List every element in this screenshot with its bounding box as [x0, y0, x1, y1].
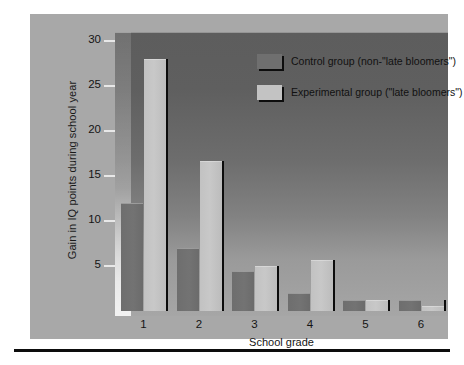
x-axis-label-6: 6 — [406, 318, 436, 330]
y-axis-tick-label: 15 — [88, 168, 101, 180]
x-axis-label-3: 3 — [240, 318, 270, 330]
bar-experimental-grade-1 — [144, 59, 166, 311]
x-axis-label-2: 2 — [184, 318, 214, 330]
bar-top-edge — [177, 248, 199, 249]
group-divider-grade-5 — [388, 300, 390, 311]
bar-control-grade-6 — [399, 300, 421, 311]
x-axis-title: School grade — [115, 336, 448, 348]
bar-control-grade-4 — [288, 293, 310, 311]
bar-top-edge — [121, 203, 143, 204]
legend: Control group (non-"late bloomers")Exper… — [257, 52, 447, 114]
bar-top-edge — [343, 300, 365, 301]
bar-control-grade-2 — [177, 248, 199, 311]
bar-experimental-grade-3 — [255, 266, 277, 311]
chart-board: Gain in IQ points during school year 510… — [30, 14, 448, 339]
y-axis-tick-mark — [104, 85, 115, 87]
bar-experimental-grade-6 — [422, 306, 444, 311]
bar-control-grade-5 — [343, 300, 365, 311]
y-axis-tick-label: 25 — [88, 78, 101, 90]
legend-swatch-experimental — [257, 85, 282, 100]
legend-swatch-control — [257, 54, 282, 69]
legend-item-experimental: Experimental group ("late bloomers") — [257, 83, 447, 101]
x-axis-labels: 123456 — [115, 318, 448, 332]
legend-label-experimental: Experimental group ("late bloomers") — [291, 86, 462, 98]
legend-item-control: Control group (non-"late bloomers") — [257, 52, 447, 70]
y-axis-tick-mark — [104, 220, 115, 222]
legend-label-control: Control group (non-"late bloomers") — [291, 55, 456, 67]
bar-top-edge — [255, 266, 277, 267]
x-axis-label-1: 1 — [129, 318, 159, 330]
bar-top-edge — [288, 293, 310, 294]
bar-control-grade-3 — [232, 271, 254, 312]
bar-experimental-grade-2 — [200, 161, 222, 311]
y-axis-tick-label: 30 — [88, 33, 101, 45]
x-axis-label-5: 5 — [351, 318, 381, 330]
figure: Gain in IQ points during school year 510… — [0, 0, 464, 365]
bar-top-edge — [399, 300, 421, 301]
bar-top-edge — [144, 59, 166, 60]
y-axis-ticks: 51015202530 — [85, 32, 115, 316]
bar-top-edge — [422, 306, 444, 307]
y-axis-title: Gain in IQ points during school year — [66, 28, 80, 312]
group-divider-grade-6 — [444, 300, 446, 311]
bar-top-edge — [366, 300, 388, 301]
bar-top-edge — [200, 161, 222, 162]
plot-area: Control group (non-"late bloomers")Exper… — [115, 32, 448, 316]
y-axis-tick-mark — [104, 40, 115, 42]
bar-experimental-grade-4 — [311, 260, 333, 311]
y-axis-tick-mark — [104, 265, 115, 267]
bar-top-edge — [232, 271, 254, 272]
x-axis-label-4: 4 — [295, 318, 325, 330]
bar-control-grade-1 — [121, 203, 143, 311]
group-divider-grade-3 — [277, 266, 279, 311]
bar-experimental-grade-5 — [366, 300, 388, 311]
y-axis-tick-label: 20 — [88, 123, 101, 135]
y-axis-tick-mark — [104, 130, 115, 132]
y-axis-tick-label: 5 — [95, 258, 101, 270]
group-divider-grade-2 — [222, 161, 224, 311]
y-axis-tick-mark — [104, 175, 115, 177]
y-axis-tick-label: 10 — [88, 213, 101, 225]
group-divider-grade-4 — [333, 260, 335, 311]
bar-top-edge — [311, 260, 333, 261]
group-divider-grade-1 — [166, 59, 168, 311]
page-bottom-rule — [14, 349, 450, 352]
